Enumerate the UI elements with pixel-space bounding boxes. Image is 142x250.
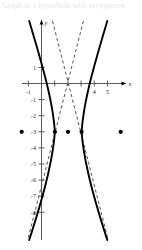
x-tick-label-4: 4 xyxy=(93,88,96,95)
y-tick-label-neg1: -1 xyxy=(31,96,36,103)
y-tick-label-neg3: -3 xyxy=(31,128,36,135)
x-axis-label: x xyxy=(128,80,132,87)
hyperbola-plot: x y -1 4 5 1 -1 -2 -3 -4 -5 -6 -7 -8 xyxy=(0,0,142,250)
x-tick-label-5: 5 xyxy=(106,88,109,95)
hyperbola-figure: Graph of a hyperbola with asymptotes xyxy=(0,0,142,250)
x-axis-arrow xyxy=(122,82,127,86)
plot-point xyxy=(20,130,24,134)
plot-point xyxy=(80,130,84,134)
plot-point xyxy=(66,130,70,134)
y-tick-label-neg2: -2 xyxy=(31,112,36,119)
y-tick-label-1: 1 xyxy=(33,64,36,71)
x-tick-label-neg1: -1 xyxy=(26,88,31,95)
y-tick-label-neg5: -5 xyxy=(31,160,36,167)
y-axis-label: y xyxy=(44,19,48,26)
y-tick-label-neg7: -7 xyxy=(31,192,36,199)
plot-point xyxy=(53,130,57,134)
plot-point xyxy=(119,130,123,134)
y-tick-label-neg6: -6 xyxy=(31,176,36,183)
y-axis-arrow xyxy=(40,20,44,25)
y-tick-label-neg8: -8 xyxy=(31,209,36,216)
hyperbola-right-branch xyxy=(82,21,108,240)
y-tick-label-neg4: -4 xyxy=(31,144,36,151)
